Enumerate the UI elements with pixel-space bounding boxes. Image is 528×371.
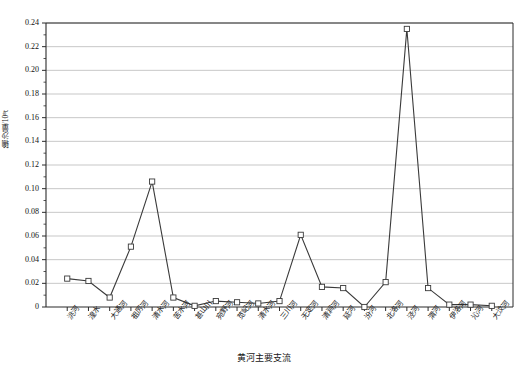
y-tick-label: 0.14 [0,136,39,145]
data-point-marker [425,285,430,290]
y-tick-label: 0.04 [0,255,39,264]
y-tick-label: 0 [0,302,39,311]
data-point-marker [404,26,409,31]
data-point-marker [213,298,218,303]
data-point-marker [150,179,155,184]
data-point-marker [107,295,112,300]
data-point-marker [128,244,133,249]
y-tick-label: 0.22 [0,42,39,51]
y-tick-label: 0.24 [0,18,39,27]
chart-container: 输沙量/10⁸t 黄河主要支流 00.020.040.060.080.100.1… [0,0,528,371]
y-tick-label: 0.16 [0,113,39,122]
y-tick-label: 0.20 [0,65,39,74]
x-axis-title: 黄河主要支流 [0,351,528,364]
data-point-marker [86,278,91,283]
y-tick-label: 0.12 [0,160,39,169]
data-point-marker [171,295,176,300]
data-point-marker [298,232,303,237]
data-point-marker [277,298,282,303]
y-tick-label: 0.08 [0,207,39,216]
data-point-marker [234,300,239,305]
y-tick-label: 0.02 [0,278,39,287]
data-point-marker [319,284,324,289]
data-point-marker [383,280,388,285]
data-point-marker [341,285,346,290]
data-point-marker [65,276,70,281]
y-tick-label: 0.10 [0,184,39,193]
y-tick-label: 0.18 [0,89,39,98]
y-tick-label: 0.06 [0,231,39,240]
